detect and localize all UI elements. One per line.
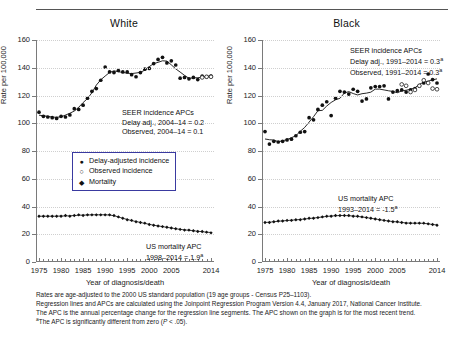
data-point-mortality xyxy=(369,217,372,220)
data-point-delay-adjusted-incidence xyxy=(435,81,439,85)
x-axis-tick-label: 1980 xyxy=(53,267,70,275)
data-point-delay-adjusted-incidence xyxy=(156,58,160,62)
y-axis-label-white: Rate per 100,000 xyxy=(0,46,8,104)
annotation-line: 1993–2014 = -1.5a xyxy=(338,204,398,215)
mortality-apc-annotation-white: US mortality APC1998–2014 = 1.9a xyxy=(146,242,203,263)
data-point-observed-incidence xyxy=(404,84,408,88)
x-axis-tick xyxy=(132,259,133,262)
data-point-delay-adjusted-incidence xyxy=(263,130,267,134)
x-axis-tick xyxy=(57,259,58,262)
plot-area-white: Year of diagnosis/death 0204060801001201… xyxy=(36,40,214,262)
data-point-delay-adjusted-incidence xyxy=(312,118,316,122)
y-axis-tick xyxy=(258,123,262,124)
x-axis-tick xyxy=(74,259,75,262)
data-point-mortality xyxy=(299,218,302,221)
data-point-mortality xyxy=(192,229,195,232)
x-axis-tick xyxy=(300,259,301,262)
x-axis-tick-label: 2000 xyxy=(367,267,384,275)
data-point-delay-adjusted-incidence xyxy=(139,71,143,75)
x-axis-tick xyxy=(437,258,438,262)
data-point-delay-adjusted-incidence xyxy=(192,76,196,80)
x-axis-tick xyxy=(43,259,44,262)
data-point-mortality xyxy=(378,218,381,221)
data-point-mortality xyxy=(174,227,177,230)
x-axis-tick xyxy=(265,258,266,262)
incidence-apc-annotation-black: SEER incidence APCsDelay adj., 1991–2014… xyxy=(350,46,443,78)
footnote-marker: a xyxy=(395,204,398,210)
data-point-delay-adjusted-incidence xyxy=(174,63,178,67)
data-point-mortality xyxy=(404,221,407,224)
x-axis-tick xyxy=(362,259,363,262)
data-point-observed-incidence xyxy=(431,87,435,91)
data-point-delay-adjusted-incidence xyxy=(431,78,435,82)
data-point-delay-adjusted-incidence xyxy=(369,86,373,90)
data-point-mortality xyxy=(64,214,67,217)
x-axis-tick-label: 1985 xyxy=(301,267,318,275)
data-point-observed-incidence xyxy=(200,76,204,80)
data-point-mortality xyxy=(435,224,438,227)
footnote-marker: a xyxy=(440,56,443,62)
data-point-mortality xyxy=(112,214,115,217)
x-axis-tick xyxy=(353,258,354,262)
x-axis-tick xyxy=(283,259,284,262)
data-point-mortality xyxy=(117,215,120,218)
data-point-mortality xyxy=(183,228,186,231)
x-axis-tick xyxy=(366,259,367,262)
data-point-mortality xyxy=(130,219,133,222)
data-point-delay-adjusted-incidence xyxy=(360,99,364,103)
x-axis-tick xyxy=(415,259,416,262)
x-axis-tick xyxy=(287,258,288,262)
data-point-mortality xyxy=(413,221,416,224)
data-point-observed-incidence xyxy=(426,81,430,85)
data-point-mortality xyxy=(187,228,190,231)
footnote-line: Regression lines and APCs are calculated… xyxy=(36,299,448,308)
x-axis-tick xyxy=(406,259,407,262)
x-axis-tick xyxy=(88,259,89,262)
data-point-delay-adjusted-incidence xyxy=(187,77,191,81)
data-point-mortality xyxy=(90,213,93,216)
data-point-delay-adjusted-incidence xyxy=(183,76,187,80)
y-axis-tick xyxy=(32,234,36,235)
y-axis-tick xyxy=(32,40,36,41)
x-axis-tick xyxy=(322,259,323,262)
y-axis-tick xyxy=(258,179,262,180)
data-point-delay-adjusted-incidence xyxy=(196,78,200,82)
x-axis-tick xyxy=(92,259,93,262)
data-point-delay-adjusted-incidence xyxy=(329,114,333,118)
data-point-delay-adjusted-incidence xyxy=(178,76,182,80)
y-axis-tick-label: 80 xyxy=(248,147,256,155)
data-point-mortality xyxy=(77,213,80,216)
x-axis-tick xyxy=(101,259,102,262)
data-point-mortality xyxy=(272,220,275,223)
data-point-mortality xyxy=(352,215,355,218)
data-point-delay-adjusted-incidence xyxy=(303,130,307,134)
y-axis-tick-label: 40 xyxy=(22,203,30,211)
data-point-mortality xyxy=(307,217,310,220)
y-axis-tick xyxy=(32,179,36,180)
data-point-mortality xyxy=(374,217,377,220)
mortality-apc-annotation-black: US mortality APC1993–2014 = -1.5a xyxy=(338,194,398,215)
data-point-delay-adjusted-incidence xyxy=(356,89,360,93)
annotation-line: Delay adj., 2004–14 = 0.2 xyxy=(122,118,204,128)
data-point-delay-adjusted-incidence xyxy=(276,140,280,144)
y-axis-tick xyxy=(258,96,262,97)
data-point-mortality xyxy=(73,214,76,217)
x-axis-tick xyxy=(349,259,350,262)
y-axis-tick-label: 100 xyxy=(243,120,256,128)
data-point-delay-adjusted-incidence xyxy=(290,137,294,141)
x-axis-tick xyxy=(127,258,128,262)
x-axis-tick xyxy=(269,259,270,262)
y-axis-tick-label: 60 xyxy=(22,175,30,183)
data-point-mortality xyxy=(139,221,142,224)
data-point-delay-adjusted-incidence xyxy=(404,90,408,94)
x-axis-tick xyxy=(411,259,412,262)
x-axis-tick-label: 1995 xyxy=(119,267,136,275)
footnote-marker: a xyxy=(200,252,203,258)
data-point-mortality xyxy=(42,215,45,218)
gridline xyxy=(263,40,440,41)
incidence-apc-annotation-white: SEER incidence APCsDelay adj., 2004–14 =… xyxy=(122,108,204,137)
x-axis-tick xyxy=(340,259,341,262)
x-axis-tick-label: 1980 xyxy=(279,267,296,275)
data-point-mortality xyxy=(360,215,363,218)
x-axis-tick xyxy=(419,259,420,262)
